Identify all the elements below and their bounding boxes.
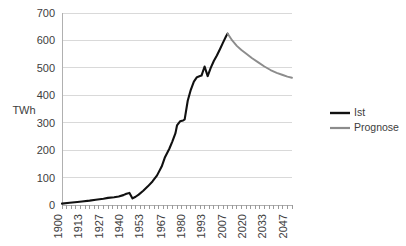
y-axis-tick-label: 700: [37, 7, 55, 19]
x-axis-tick-label: 2020: [236, 214, 248, 238]
chart-container: 0100200300400500600700 19001913192719401…: [0, 0, 406, 246]
y-axis-tick-label: 400: [37, 89, 55, 101]
x-axis-tick-label: 1927: [93, 214, 105, 238]
y-axis-title: TWh: [12, 104, 35, 116]
line-chart: 0100200300400500600700 19001913192719401…: [0, 0, 406, 246]
x-axis: [62, 205, 292, 209]
gridlines: [62, 13, 292, 205]
legend-label-ist: Ist: [354, 106, 365, 118]
y-axis-tick-label: 0: [49, 199, 55, 211]
x-axis-tick-label: 1993: [195, 214, 207, 238]
y-axis-tick-label: 200: [37, 144, 55, 156]
x-axis-tick-label: 2033: [256, 214, 268, 238]
x-axis-tick-label: 1980: [175, 214, 187, 238]
x-axis-tick-label: 2007: [216, 214, 228, 238]
x-axis-tick-label: 1967: [155, 214, 167, 238]
y-axis-tick-label: 300: [37, 117, 55, 129]
y-axis-tick-label: 600: [37, 34, 55, 46]
plot-series: [62, 34, 292, 204]
x-axis-tick-label: 1940: [113, 214, 125, 238]
x-axis-tick-label: 2047: [277, 214, 289, 238]
y-axis-tick-label: 500: [37, 62, 55, 74]
x-axis-tick-label: 1913: [72, 214, 84, 238]
legend-label-prognose: Prognose: [354, 121, 399, 133]
y-axis-tick-label: 100: [37, 172, 55, 184]
y-axis-tick-labels: 0100200300400500600700: [37, 7, 55, 211]
x-axis-tick-labels: 1900191319271940195319671980199320072020…: [52, 214, 289, 238]
x-axis-tick-marks: [62, 205, 292, 209]
x-axis-tick-label: 1900: [52, 214, 64, 238]
series-line-ist: [62, 34, 228, 204]
chart-legend: IstPrognose: [330, 106, 399, 133]
x-axis-tick-label: 1953: [133, 214, 145, 238]
